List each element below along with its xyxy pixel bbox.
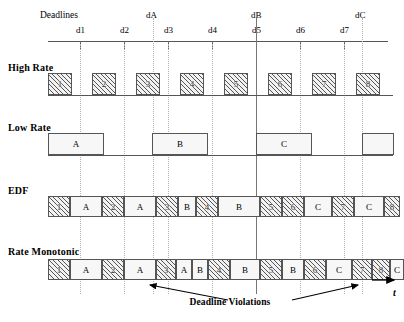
edf-block: B [218,196,260,217]
rm-block: 1 [48,259,70,280]
row-label-rate-monotonic: Rate Monotonic [8,247,79,257]
rm-block-label: 7 [360,265,365,275]
high-rate-block-label: 1 [58,79,63,89]
rm-block-label: 1 [57,265,62,275]
guide-d7 [344,44,345,294]
guide-d1 [80,44,81,294]
rm-block-label: A [83,265,90,275]
edf-block-label: B [236,202,242,212]
edf-block-label: 3 [165,202,170,212]
edf-block-label: C [366,202,372,212]
edf-block: 1 [48,196,70,217]
rm-block-label: 8 [379,265,384,275]
guide-d4 [212,44,213,294]
low-rate-block: B [152,133,208,155]
high-rate-block-label: 7 [322,79,327,89]
low-rate-block: A [48,133,104,155]
edf-block-label: 5 [269,202,274,212]
rm-block-label: 3 [164,265,169,275]
edf-block-label: 1 [57,202,62,212]
rm-block-label: C [336,265,342,275]
deadline-axis-line [48,41,388,42]
minor-tick-label-d3: d3 [164,26,173,35]
high-rate-block: 8 [356,73,380,95]
minor-tick-label-d6: d6 [296,26,305,35]
edf-block-label: A [137,202,144,212]
edf-block-label: 8 [390,202,395,212]
rm-block-label: A [137,265,144,275]
edf-block: 4 [196,196,218,217]
deadlines-title: Deadlines [40,11,78,21]
edf-block-label: A [83,202,90,212]
high-rate-block: 1 [48,73,72,95]
row-label-low-rate: Low Rate [8,123,51,133]
edf-block-label: 7 [341,202,346,212]
minor-tick-label-d2: d2 [120,26,129,35]
high-rate-block-label: 3 [146,79,151,89]
high-rate-block: 7 [312,73,336,95]
high-rate-block: 3 [136,73,160,95]
high-rate-block-label: 6 [278,79,283,89]
rm-block: 6 [304,259,326,280]
low-rate-block-label: A [73,139,80,149]
minor-tick-label-d1: d1 [76,26,85,35]
scheduling-diagram: Deadlines dA dB dC d1 d2 d3 d4 d5 d6 d7 … [0,0,404,322]
minor-tick-label-d4: d4 [208,26,217,35]
edf-block: A [70,196,102,217]
edf-block: 3 [156,196,178,217]
rm-block-label: C [394,265,400,275]
row-label-high-rate: High Rate [8,63,53,73]
edf-block: B [178,196,196,217]
rm-block-label: B [197,265,203,275]
high-rate-block-label: 4 [190,79,195,89]
edf-block: 6 [282,196,304,217]
rm-block: 8 [372,259,390,280]
edf-block: A [124,196,156,217]
rm-block: 4 [208,259,230,280]
guide-d6 [300,44,301,294]
rm-block-label: 6 [313,265,318,275]
rm-block: 2 [102,259,124,280]
rm-block-label: B [290,265,296,275]
guide-dB [256,18,257,294]
low-rate-block: C [256,133,312,155]
guide-dA [153,18,154,294]
major-tick-label-dC: dC [355,11,366,20]
guide-d3 [168,44,169,294]
major-tick-label-dA: dA [146,11,157,20]
guide-d2 [124,44,125,294]
deadline-violations-label: Deadline Violations [190,298,271,308]
edf-block-label: 2 [111,202,116,212]
low-rate-block-label: B [177,139,183,149]
edf-block: 8 [384,196,400,217]
edf-block: 5 [260,196,282,217]
edf-block-label: B [184,202,190,212]
rm-block: C [326,259,352,280]
rm-block: 5 [260,259,282,280]
low-rate-baseline [48,155,393,156]
guide-dC [362,18,363,294]
rm-block-label: B [242,265,248,275]
high-rate-block: 6 [268,73,292,95]
low-rate-block-label: C [281,139,287,149]
rm-block: 7 [352,259,372,280]
rm-block-label: 2 [111,265,116,275]
high-rate-block: 5 [224,73,248,95]
rm-block: A [70,259,102,280]
rm-block: B [282,259,304,280]
high-rate-block-label: 5 [234,79,239,89]
row-label-edf: EDF [8,186,29,196]
minor-tick-label-d7: d7 [340,26,349,35]
edf-block: 7 [332,196,354,217]
rm-block-label: 4 [217,265,222,275]
edf-block-label: 4 [205,202,210,212]
rm-block: A [124,259,156,280]
rm-block: 3 [156,259,176,280]
high-rate-block: 4 [180,73,204,95]
edf-block: C [354,196,384,217]
rm-block: B [192,259,208,280]
rm-block: C [390,259,404,280]
edf-block-label: 6 [291,202,296,212]
high-rate-block: 2 [92,73,116,95]
rm-block-label: 5 [269,265,274,275]
